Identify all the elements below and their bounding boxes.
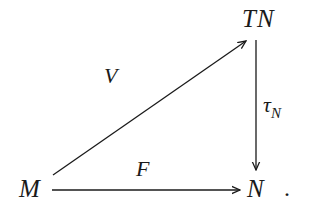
label-tau-subscript: N	[271, 105, 281, 121]
label-tau: τ	[263, 92, 271, 117]
label-tau-n: τN	[263, 94, 281, 116]
arrow-v	[53, 41, 246, 175]
commutative-diagram: TN M N . V F τN	[0, 0, 309, 207]
label-v: V	[104, 65, 117, 87]
label-f: F	[136, 158, 149, 180]
node-n: N	[247, 176, 264, 201]
node-tn: TN	[242, 6, 275, 31]
trailing-period: .	[284, 176, 290, 200]
node-m: M	[19, 176, 40, 201]
